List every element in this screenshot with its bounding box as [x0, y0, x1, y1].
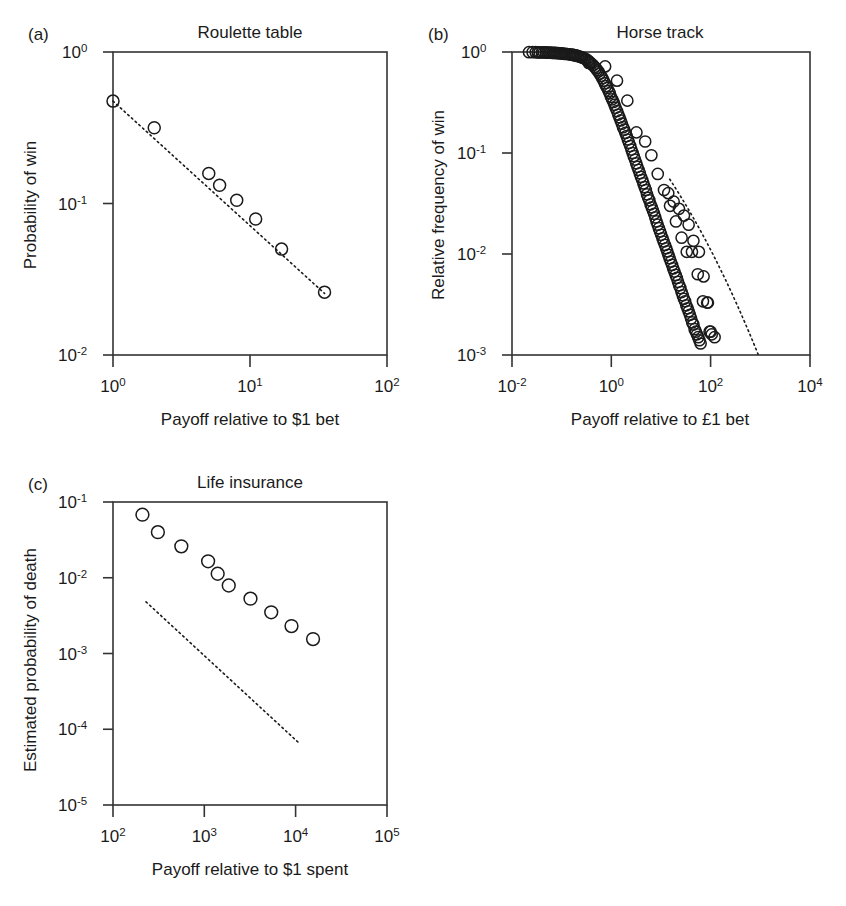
- data-point: [622, 95, 633, 106]
- panel-c-title: Life insurance: [197, 473, 303, 492]
- data-point: [611, 75, 622, 86]
- panel-b: (b) Horse track Relative frequency of wi…: [420, 0, 846, 440]
- panel-c-x-axis-title: Payoff relative to $1 spent: [152, 860, 349, 879]
- panel-b-xtick-0: 10-2: [497, 376, 526, 396]
- data-point: [211, 567, 224, 580]
- panel-a-letter: (a): [28, 25, 49, 44]
- panel-c-letter: (c): [28, 475, 48, 494]
- panel-c-xtick-0: 102: [100, 826, 125, 846]
- data-point: [646, 150, 657, 161]
- data-point: [276, 243, 288, 255]
- panel-a-plot-frame: [113, 52, 387, 355]
- panel-a: (a) Roulette table Probability of win 10…: [0, 0, 430, 440]
- data-point: [222, 579, 235, 592]
- panel-c-x-ticks: 102 103 104 105: [100, 805, 399, 846]
- panel-b-svg: (b) Horse track Relative frequency of wi…: [420, 0, 846, 440]
- panel-a-fit-line: [113, 101, 325, 293]
- panel-c-ytick-3: 10-4: [58, 719, 88, 739]
- panel-b-xtick-2: 102: [698, 376, 723, 396]
- panel-a-ytick-1: 10-1: [58, 194, 87, 214]
- panel-c-data-points: [136, 508, 319, 645]
- panel-c-xtick-1: 103: [192, 826, 217, 846]
- data-point: [307, 633, 320, 646]
- panel-b-plot-frame: [512, 52, 810, 355]
- panel-a-y-ticks: 100 10-1 10-2: [58, 42, 113, 365]
- panel-c-svg: (c) Life insurance Estimated probability…: [0, 450, 430, 906]
- data-point: [175, 540, 188, 553]
- panel-b-data-points: [523, 47, 720, 349]
- svg-text:Probability of win: Probability of win: [21, 141, 40, 270]
- panel-b-ytick-0: 100: [461, 42, 486, 62]
- panel-b-y-ticks: 100 10-1 10-2 10-3: [457, 42, 512, 365]
- panel-a-ytick-2: 10-2: [58, 345, 87, 365]
- svg-text:Estimated probability of death: Estimated probability of death: [21, 548, 40, 772]
- panel-b-x-ticks: 10-2 100 102 104: [497, 355, 823, 396]
- data-point: [250, 213, 262, 225]
- svg-text:Relative frequency of win: Relative frequency of win: [429, 110, 448, 300]
- panel-b-letter: (b): [428, 25, 449, 44]
- panel-b-xtick-1: 100: [599, 376, 624, 396]
- panel-a-y-axis-title: Probability of win: [21, 141, 40, 270]
- panel-c-ytick-2: 10-3: [58, 644, 87, 664]
- data-point: [693, 246, 704, 257]
- panel-a-title: Roulette table: [198, 23, 303, 42]
- data-point: [231, 194, 243, 206]
- figure-root: (a) Roulette table Probability of win 10…: [0, 0, 846, 906]
- panel-c-xtick-3: 105: [374, 826, 399, 846]
- data-point: [214, 179, 226, 191]
- data-point: [265, 606, 278, 619]
- panel-c-ytick-0: 10-1: [58, 492, 87, 512]
- data-point: [151, 526, 164, 539]
- panel-c-y-axis-title: Estimated probability of death: [21, 548, 40, 772]
- panel-b-x-axis-title: Payoff relative to £1 bet: [571, 410, 750, 429]
- data-point: [670, 216, 681, 227]
- panel-a-ytick-0: 100: [62, 42, 87, 62]
- data-point: [688, 235, 699, 246]
- panel-a-xtick-1: 101: [237, 376, 262, 396]
- panel-c-reference-line: [146, 602, 299, 744]
- data-point: [676, 232, 687, 243]
- panel-b-ytick-3: 10-3: [457, 345, 486, 365]
- panel-c-xtick-2: 104: [283, 826, 309, 846]
- data-point: [319, 286, 331, 298]
- data-point: [640, 136, 651, 147]
- panel-c-y-ticks: 10-1 10-2 10-3 10-4 10-5: [58, 492, 113, 815]
- data-point: [136, 508, 149, 521]
- data-point: [148, 122, 160, 134]
- data-point: [652, 168, 663, 179]
- panel-c-ytick-4: 10-5: [58, 795, 87, 815]
- data-point: [631, 127, 642, 138]
- data-point: [203, 167, 215, 179]
- panel-a-xtick-0: 100: [100, 376, 125, 396]
- data-point: [244, 592, 257, 605]
- data-point: [285, 620, 298, 633]
- panel-c-plot-frame: [113, 502, 387, 805]
- panel-b-ytick-2: 10-2: [457, 244, 486, 264]
- panel-a-xtick-2: 102: [374, 376, 399, 396]
- panel-b-xtick-3: 104: [797, 376, 823, 396]
- data-point: [683, 219, 694, 230]
- data-point: [202, 555, 215, 568]
- panel-b-ytick-1: 10-1: [457, 143, 486, 163]
- panel-a-x-ticks: 100 101 102: [100, 355, 399, 396]
- panel-b-y-axis-title: Relative frequency of win: [429, 110, 448, 300]
- panel-a-svg: (a) Roulette table Probability of win 10…: [0, 0, 430, 440]
- panel-c: (c) Life insurance Estimated probability…: [0, 450, 430, 906]
- panel-c-ytick-1: 10-2: [58, 568, 87, 588]
- panel-a-x-axis-title: Payoff relative to $1 bet: [161, 410, 340, 429]
- panel-b-title: Horse track: [617, 23, 704, 42]
